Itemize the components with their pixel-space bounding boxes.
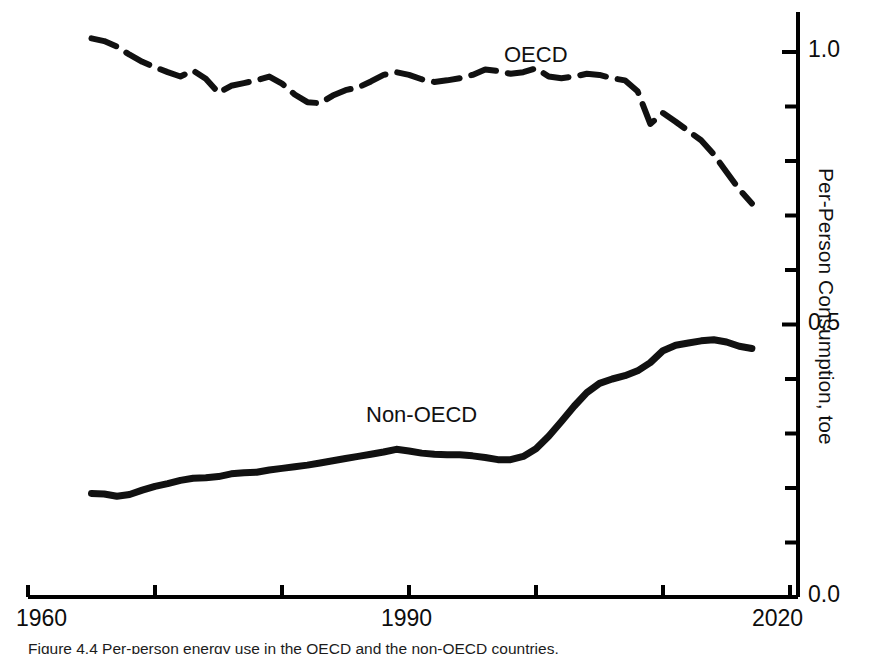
- y-axis-title: Per-Person Consumption, toe: [814, 168, 838, 498]
- chart-axes: [28, 12, 798, 597]
- x-axis-tick-label-1990: 1990: [381, 605, 432, 632]
- chart-figure: 1960 1990 2020 0.0 0.5 1.0 Per-Person Co…: [0, 0, 884, 654]
- series-line-oecd: [92, 38, 752, 203]
- x-axis-tick-label-1960: 1960: [16, 605, 67, 632]
- figure-caption: Figure 4.4 Per-person energy use in the …: [28, 638, 884, 654]
- x-axis-tick-label-2020: 2020: [752, 605, 803, 632]
- series-label-oecd: OECD: [504, 42, 568, 68]
- chart-plot-area: [0, 0, 884, 654]
- y-axis-tick-label-1-0: 1.0: [808, 36, 840, 63]
- series-label-non-oecd: Non-OECD: [366, 402, 477, 428]
- y-axis-tick-label-0-0: 0.0: [808, 581, 840, 608]
